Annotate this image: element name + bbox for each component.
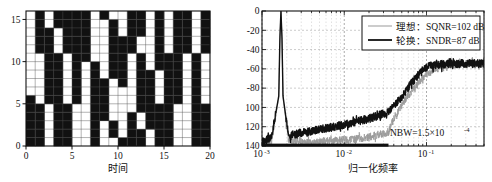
heatmap-cell-on xyxy=(118,45,128,54)
heatmap-cell-on xyxy=(100,87,110,96)
heatmap-cell-on xyxy=(109,121,119,130)
heatmap-cell-on xyxy=(146,95,156,104)
heatmap-cell-on xyxy=(63,19,73,28)
heatmap-cell-on xyxy=(54,121,64,130)
heatmap-cell-on xyxy=(72,19,82,28)
heatmap-cell-on xyxy=(63,36,73,45)
y-tick-labels: 051015 xyxy=(11,15,21,152)
output-spectrum-panel: 0-20-40-60-80-100-120-140 10-310-210-1 理… xyxy=(246,0,492,182)
heatmap-cell-on xyxy=(72,62,82,71)
x-tick-label-group: 10-2 xyxy=(336,148,352,160)
heatmap-cell-on xyxy=(35,45,45,54)
heatmap-cell-on xyxy=(155,112,165,121)
legend-label-ideal: 理想：SQNR=102 dB xyxy=(396,21,484,32)
heatmap-cell-on xyxy=(35,36,45,45)
x-tick-exponent: -1 xyxy=(429,148,434,155)
nbw-annotation-exponent: -4 xyxy=(464,126,470,133)
x-tick-label: 5 xyxy=(70,151,75,161)
heatmap-cell-on xyxy=(81,36,91,45)
heatmap-cell-on xyxy=(72,87,82,96)
heatmap-cell-on xyxy=(201,28,211,37)
heatmap-cell-on xyxy=(201,121,211,130)
heatmap-cell-on xyxy=(127,11,137,20)
heatmap-cell-on xyxy=(90,70,100,79)
heatmap-cell-on xyxy=(173,36,183,45)
x-axis-label: 归一化频率 xyxy=(348,162,398,174)
heatmap-cell-on xyxy=(54,129,64,138)
heatmap-cell-on xyxy=(192,95,202,104)
heatmap-cell-on xyxy=(164,62,174,71)
heatmap-cell-on xyxy=(72,36,82,45)
heatmap-cell-on xyxy=(26,112,36,121)
heatmap-cell-on xyxy=(164,112,174,121)
output-spectrum-svg: 0-20-40-60-80-100-120-140 10-310-210-1 理… xyxy=(246,0,492,182)
heatmap-cell-on xyxy=(164,95,174,104)
heatmap-cell-on xyxy=(90,138,100,147)
heatmap-cell-on xyxy=(35,138,45,147)
heatmap-cell-on xyxy=(136,87,146,96)
heatmap-cell-on xyxy=(155,11,165,20)
heatmap-cell-on xyxy=(26,138,36,147)
heatmap-cell-on xyxy=(201,36,211,45)
heatmap-cell-on xyxy=(182,11,192,20)
heatmap-cell-on xyxy=(54,138,64,147)
heatmap-cell-on xyxy=(100,11,110,20)
heatmap-cell-on xyxy=(201,129,211,138)
heatmap-cell-on xyxy=(136,11,146,20)
heatmap-cell-on xyxy=(146,112,156,121)
y-tick-label: 0 xyxy=(16,141,21,151)
heatmap-cell-on xyxy=(44,87,54,96)
heatmap-cell-on xyxy=(35,11,45,20)
heatmap-cell-on xyxy=(100,112,110,121)
legend[interactable]: 理想：SQNR=102 dB 轮换：SNDR=87 dB xyxy=(362,16,484,50)
heatmap-cell-on xyxy=(26,121,36,130)
heatmap-cell-on xyxy=(54,112,64,121)
heatmap-cell-on xyxy=(72,53,82,62)
y-tick-labels: 0-20-40-60-80-100-120-140 xyxy=(246,6,260,151)
heatmap-cell-on xyxy=(192,138,202,147)
heatmap-cell-on xyxy=(136,53,146,62)
heatmap-cell-on xyxy=(118,62,128,71)
heatmap-cell-on xyxy=(109,70,119,79)
x-axis-label: 时间 xyxy=(108,162,128,174)
x-tick-mantissa: 10 xyxy=(336,149,346,159)
element-rotation-map-panel: 05101520 051015 时间 xyxy=(0,0,246,182)
heatmap-cell-on xyxy=(35,19,45,28)
x-tick-label: 0 xyxy=(24,151,29,161)
heatmap-cell-on xyxy=(127,138,137,147)
heatmap-cell-on xyxy=(90,129,100,138)
heatmap-cell-on xyxy=(90,95,100,104)
heatmap-cell-on xyxy=(54,70,64,79)
heatmap-cell-on xyxy=(192,70,202,79)
y-tick-label: 0 xyxy=(255,6,260,16)
heatmap-cell-on xyxy=(63,11,73,20)
heatmap-cell-on xyxy=(90,62,100,71)
heatmap-cell-on xyxy=(72,28,82,37)
heatmap-cell-on xyxy=(100,79,110,88)
heatmap-cell-on xyxy=(63,121,73,130)
heatmap-cell-on xyxy=(192,112,202,121)
heatmap-cell-on xyxy=(72,79,82,88)
x-tick-label-group: 10-3 xyxy=(253,148,269,160)
heatmap-cell-on xyxy=(192,87,202,96)
heatmap-cell-on xyxy=(192,121,202,130)
heatmap-cell-on xyxy=(81,19,91,28)
heatmap-cell-on xyxy=(182,36,192,45)
heatmap-cell-on xyxy=(155,138,165,147)
heatmap-cell-on xyxy=(192,62,202,71)
heatmap-cell-on xyxy=(44,70,54,79)
heatmap-cell-on xyxy=(109,129,119,138)
x-tick-labels: 05101520 xyxy=(24,151,215,161)
heatmap-cell-on xyxy=(201,112,211,121)
y-tick-label: -100 xyxy=(246,103,260,113)
heatmap-cell-on xyxy=(136,104,146,113)
heatmap-cell-on xyxy=(155,129,165,138)
heatmap-cell-on xyxy=(63,138,73,147)
heatmap-cell-on xyxy=(72,95,82,104)
heatmap-cell-on xyxy=(90,121,100,130)
heatmap-cell-on xyxy=(164,79,174,88)
heatmap-cell-on xyxy=(164,53,174,62)
x-tick-exponent: -2 xyxy=(347,148,352,155)
heatmap-cell-on xyxy=(109,19,119,28)
heatmap-cell-on xyxy=(54,104,64,113)
